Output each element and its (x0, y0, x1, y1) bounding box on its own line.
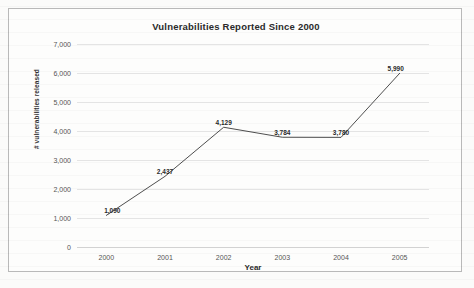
data-point-label: 3,784 (274, 129, 290, 136)
chart-figure-frame: Vulnerabilities Reported Since 2000 # vu… (8, 8, 462, 272)
scan-artifact (0, 279, 474, 280)
y-axis-tick-label: 4,000 (53, 128, 71, 135)
y-axis-tick-label: 7,000 (53, 41, 71, 48)
data-point-label: 5,990 (388, 65, 404, 72)
x-axis-tick-label: 2005 (392, 254, 408, 261)
y-axis-tick-label: 2,000 (53, 186, 71, 193)
y-axis-tick-label: 0 (67, 244, 71, 251)
y-axis-tick-label: 1,000 (53, 215, 71, 222)
y-axis-tick-label: 6,000 (53, 70, 71, 77)
x-axis-tick-label: 2003 (275, 254, 291, 261)
scan-artifact (0, 6, 474, 7)
data-point-label: 2,437 (157, 168, 173, 175)
y-axis-tick-label: 3,000 (53, 157, 71, 164)
y-axis-tick-label: 5,000 (53, 99, 71, 106)
x-axis-tick-label: 2000 (99, 254, 115, 261)
x-axis-title: Year (77, 263, 429, 272)
data-point-label: 3,780 (333, 129, 349, 136)
x-axis-tick-label: 2002 (216, 254, 232, 261)
plot-area: 01,0002,0003,0004,0005,0006,0007,000 200… (77, 44, 429, 247)
data-point-label: 4,129 (216, 119, 232, 126)
x-axis-tick-label: 2001 (157, 254, 173, 261)
gridline (77, 247, 429, 248)
scanned-page-background: Vulnerabilities Reported Since 2000 # vu… (0, 0, 474, 288)
line-series (77, 44, 429, 247)
chart-title: Vulnerabilities Reported Since 2000 (9, 21, 463, 32)
data-point-label: 1,090 (104, 207, 120, 214)
y-axis-title: # vulnerabilities released (33, 69, 40, 149)
x-axis-tick-label: 2004 (333, 254, 349, 261)
